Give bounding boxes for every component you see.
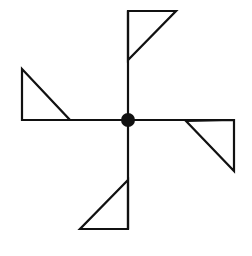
- flag-left: [22, 69, 70, 120]
- center-dot: [121, 113, 135, 127]
- pinwheel-diagram: [0, 0, 252, 256]
- flag-right: [186, 120, 234, 171]
- flag-bottom: [80, 180, 128, 229]
- flag-top: [128, 11, 176, 60]
